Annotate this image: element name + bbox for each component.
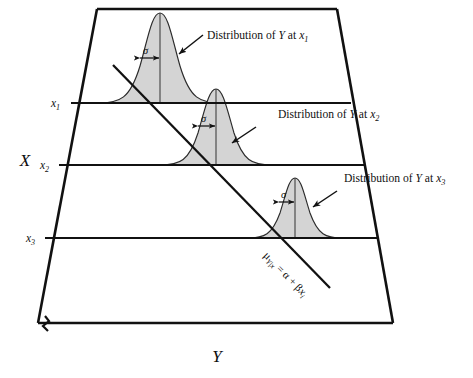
callout-x3-mid: at: [422, 172, 436, 185]
callout-x1-prefix: Distribution of: [207, 29, 279, 42]
sigma-label-x3: σ: [281, 189, 287, 200]
callout-text-x3: Distribution of Y at x3: [344, 172, 445, 187]
callout-x3-sub: 3: [440, 178, 445, 187]
axis-label-x: X: [19, 151, 31, 170]
diagram-background: [0, 0, 473, 378]
tick-x3-sub: 3: [30, 238, 35, 247]
tick-x2-sub: 2: [45, 165, 49, 174]
sigma-label-x2: σ: [201, 113, 207, 124]
callout-x2-mid: at: [356, 108, 370, 121]
callout-text-x1: Distribution of Y at x1: [207, 29, 308, 44]
callout-x3-prefix: Distribution of: [344, 172, 416, 185]
sigma-label-x1: σ: [143, 45, 149, 56]
regression-diagram: σ σ σ Distribution of Y at x1 Distributi…: [0, 0, 473, 378]
callout-x1-mid: at: [285, 29, 299, 42]
callout-x2-prefix: Distribution of: [278, 108, 350, 121]
callout-x2-sub: 2: [375, 114, 379, 123]
callout-text-x2: Distribution of Y at x2: [278, 108, 379, 123]
callout-x1-sub: 1: [304, 35, 308, 44]
tick-x1-sub: 1: [56, 103, 60, 112]
axis-label-y: Y: [212, 347, 223, 366]
